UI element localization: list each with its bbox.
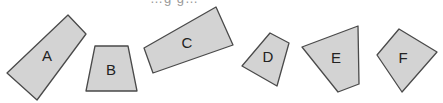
shape-a: A bbox=[7, 15, 86, 100]
label-b: B bbox=[106, 61, 116, 78]
shape-f: F bbox=[377, 29, 437, 92]
shape-c: C bbox=[144, 7, 233, 73]
label-e: E bbox=[331, 49, 341, 66]
shape-d: D bbox=[242, 33, 289, 86]
shape-e: E bbox=[302, 26, 359, 92]
shape-b: B bbox=[86, 46, 137, 91]
label-c: C bbox=[182, 34, 193, 51]
shapes-diagram: A B C D E F bbox=[0, 0, 443, 103]
label-a: A bbox=[42, 47, 52, 64]
label-d: D bbox=[263, 48, 274, 65]
label-f: F bbox=[398, 49, 407, 66]
